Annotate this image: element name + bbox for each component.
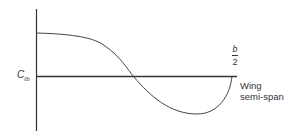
fraction-numerator: b — [228, 44, 242, 54]
x-axis-label-line2: semi-span — [240, 91, 284, 102]
diagram-canvas — [0, 0, 292, 138]
fraction-denominator: 2 — [228, 57, 242, 67]
x-axis-label-line1: Wing — [240, 80, 284, 91]
semi-span-end-label: b 2 — [228, 44, 242, 67]
fraction-bar — [232, 55, 238, 56]
clb-curve — [37, 33, 233, 114]
y-axis-label: Cℓb — [17, 69, 30, 82]
x-axis-label: Wing semi-span — [240, 80, 284, 102]
